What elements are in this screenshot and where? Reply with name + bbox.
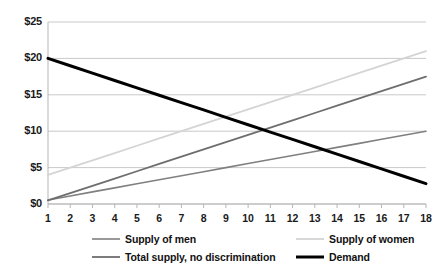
legend-label-total-supply: Total supply, no discrimination [125, 251, 276, 263]
y-axis-tick-label: $0 [0, 197, 42, 209]
x-axis-tick-label: 1 [37, 212, 59, 224]
x-axis-tick-label: 9 [215, 212, 237, 224]
legend-swatch-total-supply [92, 252, 120, 262]
legend-item-demand[interactable]: Demand [296, 251, 370, 263]
x-axis-tick-label: 6 [148, 212, 170, 224]
x-axis-tick-label: 13 [304, 212, 326, 224]
legend-item-total-supply[interactable]: Total supply, no discrimination [92, 251, 276, 263]
y-axis-tick-label: $5 [0, 161, 42, 173]
y-axis-tick-label: $10 [0, 124, 42, 136]
legend-swatch-supply-of-women [296, 234, 324, 244]
x-axis-tick-label: 3 [81, 212, 103, 224]
x-axis-tick-label: 15 [348, 212, 370, 224]
x-axis-tick-label: 2 [59, 212, 81, 224]
x-axis-tick-label: 12 [282, 212, 304, 224]
x-axis-tick-label: 18 [415, 212, 437, 224]
x-axis-tick-label: 11 [259, 212, 281, 224]
legend-item-supply-of-women[interactable]: Supply of women [296, 233, 414, 245]
y-axis-tick-label: $15 [0, 88, 42, 100]
x-axis-tick-label: 14 [326, 212, 348, 224]
series-line [48, 51, 426, 175]
plot-area [0, 0, 438, 231]
x-axis-tick-label: 10 [237, 212, 259, 224]
legend-label-demand: Demand [329, 251, 370, 263]
legend-swatch-supply-of-men [92, 234, 120, 244]
x-axis-tick-label: 16 [371, 212, 393, 224]
legend-swatch-demand [296, 252, 324, 262]
x-axis-tick-label: 7 [170, 212, 192, 224]
legend-item-supply-of-men[interactable]: Supply of men [92, 233, 196, 245]
x-axis-tick-label: 4 [104, 212, 126, 224]
x-axis-tick-label: 8 [193, 212, 215, 224]
legend-label-supply-of-women: Supply of women [329, 233, 414, 245]
y-axis-tick-label: $20 [0, 51, 42, 63]
chart-legend: Supply of men Supply of women Total supp… [0, 231, 438, 277]
x-axis-tick-label: 17 [393, 212, 415, 224]
line-chart: $0$5$10$15$20$25 12345678910111213141516… [0, 0, 438, 280]
plot-svg [0, 0, 438, 231]
y-axis-tick-label: $25 [0, 15, 42, 27]
x-axis-tick-label: 5 [126, 212, 148, 224]
legend-label-supply-of-men: Supply of men [125, 233, 196, 245]
